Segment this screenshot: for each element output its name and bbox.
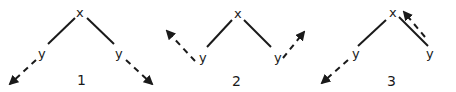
arrow-left-dashed: [10, 60, 36, 84]
label-x: x: [76, 5, 84, 20]
diagram-3: x y y 3: [322, 5, 434, 89]
diagram-number: 1: [77, 72, 86, 88]
branch-left-solid: [207, 20, 232, 47]
branch-left-solid: [358, 20, 386, 46]
arrow-right-dashed: [283, 32, 304, 58]
diagram-2: x y y 2: [167, 6, 304, 89]
label-y-left: y: [352, 46, 360, 61]
label-x: x: [389, 5, 397, 20]
label-y-right: y: [274, 50, 282, 65]
label-x: x: [234, 6, 242, 21]
label-y-left: y: [38, 46, 46, 61]
diagram-number: 2: [232, 73, 241, 89]
branch-right-solid: [87, 18, 114, 44]
branch-left-solid: [48, 18, 75, 44]
arrow-left-dashed: [167, 31, 195, 61]
label-y-left: y: [199, 50, 207, 65]
arrow-left-dashed: [322, 60, 348, 83]
diagram-number: 3: [387, 73, 396, 89]
arrow-right-dashed: [126, 60, 152, 84]
diagram-canvas: x y y 1 x y y 2 x y y 3: [0, 0, 456, 92]
label-y-right: y: [426, 46, 434, 61]
label-y-right: y: [115, 46, 123, 61]
diagram-1: x y y 1: [10, 5, 152, 88]
branch-right-solid: [244, 20, 271, 47]
branch-right-solid: [399, 17, 428, 46]
